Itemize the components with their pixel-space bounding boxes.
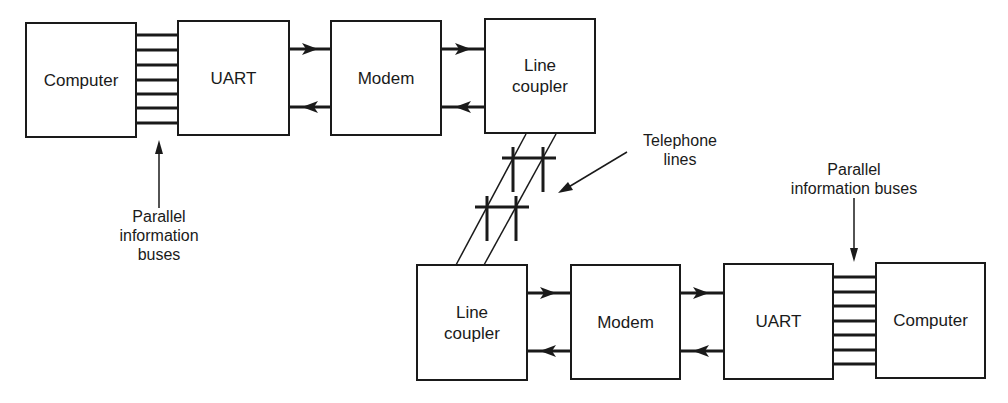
bottom-computer-label: Computer — [893, 310, 968, 331]
top-line-coupler-label: Line coupler — [512, 55, 568, 97]
top-modem-block: Modem — [330, 20, 442, 136]
telephone-pointer-arrow — [558, 152, 627, 193]
top-computer-label: Computer — [44, 70, 119, 91]
bottom-modem-block: Modem — [570, 264, 681, 380]
bottom-parallel-bus — [833, 277, 875, 364]
top-uart-block: UART — [177, 20, 290, 136]
bottom-uart-label: UART — [756, 311, 802, 332]
top-bus-pointer-arrow — [155, 140, 163, 208]
top-modem-label: Modem — [358, 68, 415, 89]
bottom-bus-label: Parallel information buses — [784, 160, 924, 198]
bottom-bus-pointer-arrow — [850, 198, 858, 262]
top-parallel-bus — [136, 35, 178, 123]
bottom-modem-label: Modem — [597, 312, 654, 333]
bottom-line-coupler-label: Line coupler — [444, 302, 500, 344]
bottom-line-coupler-block: Line coupler — [416, 264, 528, 381]
bottom-uart-block: UART — [723, 263, 834, 380]
bottom-computer-block: Computer — [875, 262, 986, 379]
top-uart-label: UART — [211, 68, 257, 89]
telephone-lines-label: Telephone lines — [625, 131, 735, 169]
top-line-coupler-block: Line coupler — [484, 18, 596, 134]
telephone-lines — [456, 134, 556, 265]
top-bus-label: Parallel information buses — [99, 207, 219, 264]
top-computer-block: Computer — [25, 22, 137, 138]
